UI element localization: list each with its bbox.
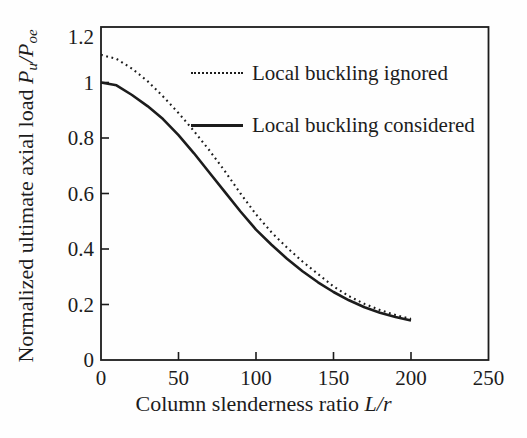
y-tick-label: 1.2	[36, 24, 94, 50]
curve-local-buckling-ignored	[101, 55, 411, 319]
y-tick-label: 0.4	[36, 236, 94, 262]
y-axis-label: Normalized ultimate axial load Pu/Poe	[13, 29, 41, 362]
y-tick-label: 0.6	[36, 181, 94, 207]
y-tick-label: 0.8	[36, 125, 94, 151]
x-tick-label: 200	[381, 365, 441, 391]
x-axis-label-text: Column slenderness ratio	[135, 391, 359, 416]
legend-label-considered: Local buckling considered	[252, 113, 475, 138]
x-tick-label: 150	[304, 365, 364, 391]
x-tick-label: 50	[149, 365, 209, 391]
y-axis-symbol-p1: P	[13, 71, 38, 84]
x-tick-label: 250	[459, 365, 519, 391]
x-axis-label: Column slenderness ratio L/r	[0, 391, 527, 417]
legend-dotted-line-sample	[191, 72, 243, 74]
x-tick-label: 100	[226, 365, 286, 391]
figure: 05010015020025000.20.40.60.811.2 Normali…	[0, 0, 527, 438]
y-axis-symbol-p2: P	[13, 44, 38, 57]
y-tick-label: 0	[36, 347, 94, 373]
legend-label-ignored: Local buckling ignored	[252, 61, 448, 86]
legend-solid-line-sample	[191, 124, 243, 127]
y-tick-label: 1	[36, 70, 94, 96]
y-axis-symbol-p1-sub: u	[24, 63, 40, 70]
y-tick-label: 0.2	[36, 292, 94, 318]
x-axis-symbol: L/r	[365, 391, 392, 416]
y-axis-symbol-p2-sub: oe	[24, 29, 40, 43]
legend-item-ignored: Local buckling ignored	[191, 60, 448, 86]
y-axis-label-text: Normalized ultimate axial load	[13, 90, 38, 363]
legend-item-considered: Local buckling considered	[191, 112, 475, 138]
y-axis-symbol-slash: /	[13, 57, 38, 63]
